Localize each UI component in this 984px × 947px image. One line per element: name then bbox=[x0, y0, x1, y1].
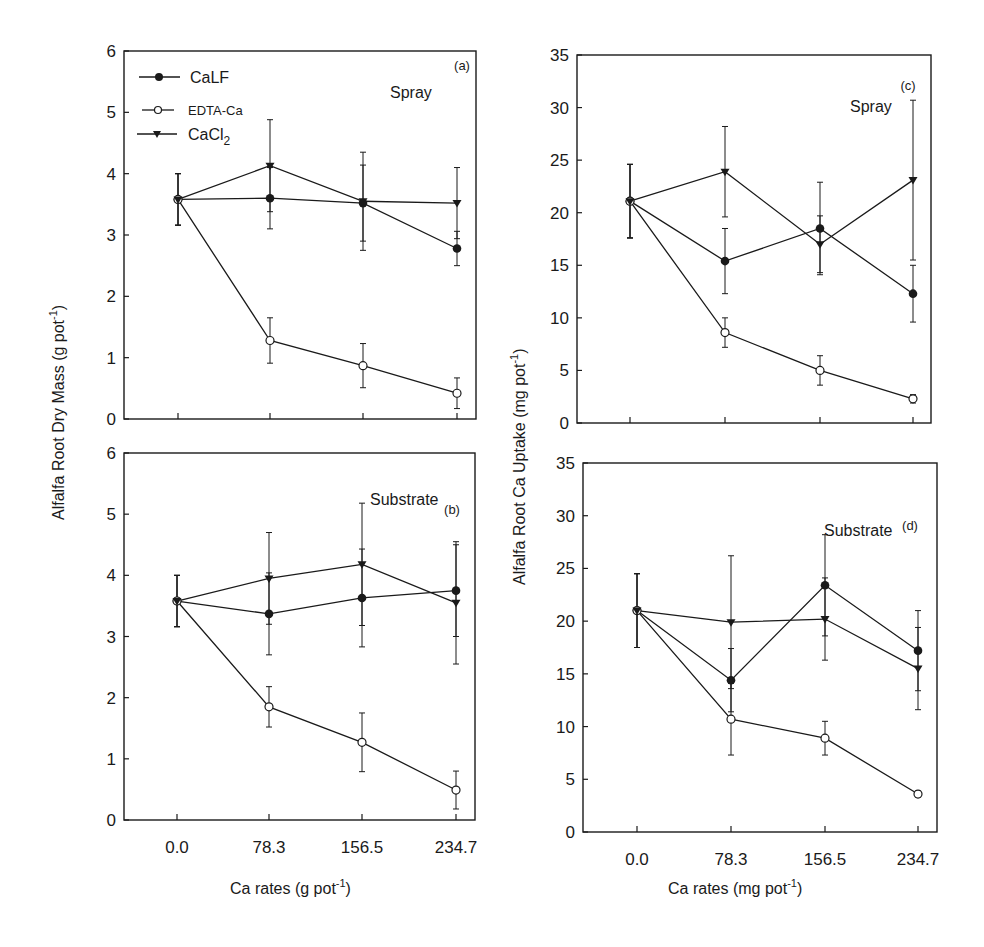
markers-cacl2 bbox=[626, 169, 918, 249]
right-y-axis-label: Alfalfa Root Ca Uptake (mg pot-1) bbox=[508, 348, 528, 585]
open-circle-marker-icon bbox=[816, 366, 824, 374]
figure-canvas: 0123456(a)Spray01234560.078.3156.5234.7(… bbox=[0, 0, 984, 947]
triangle-down-marker-icon bbox=[452, 600, 461, 608]
filled-circle-marker-icon bbox=[452, 586, 461, 595]
open-circle-marker-icon bbox=[727, 715, 735, 723]
legend-edta-ca: EDTA-Ca bbox=[188, 103, 243, 118]
y-tick-label: 5 bbox=[560, 361, 569, 380]
series-edta-ca bbox=[627, 164, 916, 403]
y-tick-label: 0 bbox=[560, 414, 569, 433]
markers-calf bbox=[626, 197, 918, 298]
open-circle-marker-icon bbox=[266, 336, 274, 344]
y-tick-label: 1 bbox=[107, 750, 116, 769]
panel-b: 01234560.078.3156.5234.7(b)Substrate bbox=[107, 444, 478, 857]
triangle-down-marker-icon bbox=[453, 200, 462, 208]
panel-tag: (a) bbox=[454, 58, 470, 73]
open-circle-marker-icon bbox=[914, 790, 922, 798]
y-tick-label: 20 bbox=[556, 612, 575, 631]
open-circle-marker-icon bbox=[909, 395, 917, 403]
x-tick-label: 0.0 bbox=[165, 838, 189, 857]
y-tick-label: 0 bbox=[107, 410, 116, 429]
open-circle-marker-icon bbox=[453, 389, 461, 397]
y-tick-label: 35 bbox=[550, 46, 569, 65]
series-edta-ca bbox=[174, 575, 459, 809]
x-tick-label: 78.3 bbox=[252, 838, 285, 857]
y-tick-label: 35 bbox=[556, 454, 575, 473]
open-circle-marker-icon bbox=[358, 738, 366, 746]
x-tick-label: 234.7 bbox=[897, 850, 940, 869]
y-tick-label: 0 bbox=[566, 823, 575, 842]
filled-circle-marker-icon bbox=[358, 594, 367, 603]
y-tick-label: 1 bbox=[107, 349, 116, 368]
left-x-axis-label: Ca rates (g pot-1) bbox=[230, 877, 351, 897]
filled-circle-marker-icon bbox=[914, 646, 923, 655]
filled-circle-marker-icon bbox=[721, 257, 730, 266]
filled-circle-marker-icon bbox=[909, 289, 918, 298]
open-circle-marker-icon bbox=[265, 703, 273, 711]
y-tick-label: 6 bbox=[107, 42, 116, 61]
x-tick-label: 234.7 bbox=[435, 838, 478, 857]
open-circle-marker-icon bbox=[452, 786, 460, 794]
treatment-label: Spray bbox=[390, 84, 432, 101]
y-tick-label: 25 bbox=[556, 559, 575, 578]
series-edta-ca bbox=[175, 174, 460, 409]
triangle-down-marker-icon bbox=[816, 241, 825, 249]
series-calf bbox=[634, 535, 921, 712]
y-tick-label: 30 bbox=[550, 99, 569, 118]
series-calf bbox=[175, 165, 460, 266]
left-y-axis-label: Alfalfa Root Dry Mass (g pot-1) bbox=[47, 305, 67, 520]
filled-circle-marker-icon bbox=[265, 610, 274, 619]
x-tick-label: 0.0 bbox=[625, 850, 649, 869]
y-tick-label: 2 bbox=[107, 689, 116, 708]
filled-circle-marker-icon bbox=[453, 244, 462, 253]
markers-edta-ca bbox=[173, 597, 460, 794]
legend-calf: CaLF bbox=[190, 69, 229, 86]
triangle-down-marker-icon bbox=[914, 666, 923, 674]
panel-tag: (d) bbox=[902, 518, 918, 533]
open-circle-marker-icon bbox=[821, 734, 829, 742]
y-tick-label: 4 bbox=[107, 165, 116, 184]
x-tick-label: 156.5 bbox=[804, 850, 847, 869]
y-tick-label: 3 bbox=[107, 628, 116, 647]
y-tick-label: 25 bbox=[550, 151, 569, 170]
filled-circle-marker-icon bbox=[266, 194, 275, 203]
legend-cacl2: CaCl2 bbox=[188, 126, 231, 148]
x-tick-label: 156.5 bbox=[341, 838, 384, 857]
y-tick-label: 20 bbox=[550, 204, 569, 223]
markers-edta-ca bbox=[633, 607, 922, 798]
plot-frame bbox=[124, 51, 476, 419]
markers-cacl2 bbox=[633, 608, 923, 673]
y-tick-label: 5 bbox=[107, 103, 116, 122]
y-tick-label: 0 bbox=[107, 811, 116, 830]
filled-circle-marker-icon bbox=[727, 676, 736, 685]
open-circle-marker-icon bbox=[721, 329, 729, 337]
legend: CaLF EDTA-Ca CaCl2 bbox=[137, 69, 243, 148]
series-cacl2 bbox=[174, 503, 459, 664]
markers-edta-ca bbox=[174, 195, 461, 397]
series-edta-ca bbox=[634, 574, 921, 798]
panel-d: 051015202530350.078.3156.5234.7(d)Substr… bbox=[556, 454, 939, 869]
y-tick-label: 5 bbox=[566, 770, 575, 789]
x-tick-label: 78.3 bbox=[714, 850, 747, 869]
y-tick-label: 2 bbox=[107, 287, 116, 306]
y-tick-label: 6 bbox=[107, 444, 116, 463]
series-cacl2 bbox=[627, 100, 916, 272]
panel-c: 05101520253035(c)Spray bbox=[550, 46, 931, 433]
treatment-label: Spray bbox=[850, 98, 892, 115]
y-tick-label: 4 bbox=[107, 566, 116, 585]
panel-tag: (b) bbox=[444, 502, 460, 517]
edta-ca-marker-icon bbox=[155, 107, 162, 114]
y-tick-label: 10 bbox=[556, 718, 575, 737]
treatment-label: Substrate bbox=[370, 491, 439, 508]
y-tick-label: 5 bbox=[107, 505, 116, 524]
treatment-label: Substrate bbox=[824, 522, 893, 539]
filled-circle-marker-icon bbox=[816, 224, 825, 233]
y-tick-label: 3 bbox=[107, 226, 116, 245]
triangle-down-marker-icon bbox=[909, 177, 918, 185]
y-tick-label: 30 bbox=[556, 507, 575, 526]
plot-frame bbox=[124, 453, 475, 820]
calf-marker-icon bbox=[155, 73, 163, 81]
y-tick-label: 15 bbox=[556, 665, 575, 684]
open-circle-marker-icon bbox=[359, 362, 367, 370]
panel-tag: (c) bbox=[900, 78, 915, 93]
